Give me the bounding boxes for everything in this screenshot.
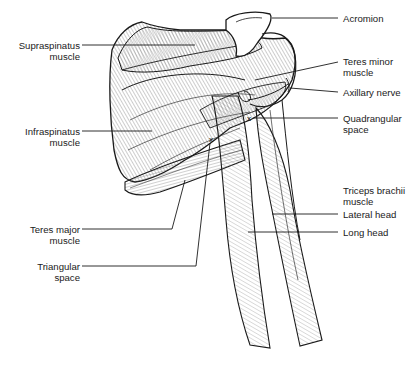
label-lateral-head: Lateral head — [343, 209, 396, 220]
label-axillary-nerve: Axillary nerve — [343, 87, 401, 98]
label-line: muscle — [343, 196, 405, 207]
label-line: muscle — [19, 51, 80, 62]
label-acromion: Acromion — [343, 13, 384, 24]
triceps-lateral-head-drawing — [256, 108, 322, 346]
label-line: Teres major — [30, 224, 80, 235]
label-line: space — [343, 124, 402, 135]
label-line: muscle — [30, 235, 80, 246]
label-line: Lateral head — [343, 209, 396, 220]
label-line: space — [37, 272, 80, 283]
label-line: Supraspinatus — [19, 40, 80, 51]
label-triangular-space: Triangular space — [37, 261, 80, 283]
label-long-head: Long head — [343, 227, 388, 238]
label-quadrangular-space: Quadrangular space — [343, 113, 402, 135]
label-teres-minor: Teres minor muscle — [343, 56, 393, 78]
label-line: Infraspinatus — [25, 126, 80, 137]
label-line: Axillary nerve — [343, 87, 401, 98]
label-line: Acromion — [343, 13, 384, 24]
label-line: muscle — [25, 137, 80, 148]
label-triceps-brachii: Triceps brachii muscle — [343, 185, 405, 207]
label-supraspinatus: Supraspinatus muscle — [19, 40, 80, 62]
triangular-space-marker: x — [209, 135, 213, 144]
quadrangular-space-marker: x — [247, 114, 251, 123]
label-line: Triceps brachii — [343, 185, 405, 196]
label-line: Long head — [343, 227, 388, 238]
label-infraspinatus: Infraspinatus muscle — [25, 126, 80, 148]
label-line: Quadrangular — [343, 113, 402, 124]
label-line: Triangular — [37, 261, 80, 272]
label-teres-major: Teres major muscle — [30, 224, 80, 246]
label-line: Teres minor — [343, 56, 393, 67]
label-line: muscle — [343, 67, 393, 78]
